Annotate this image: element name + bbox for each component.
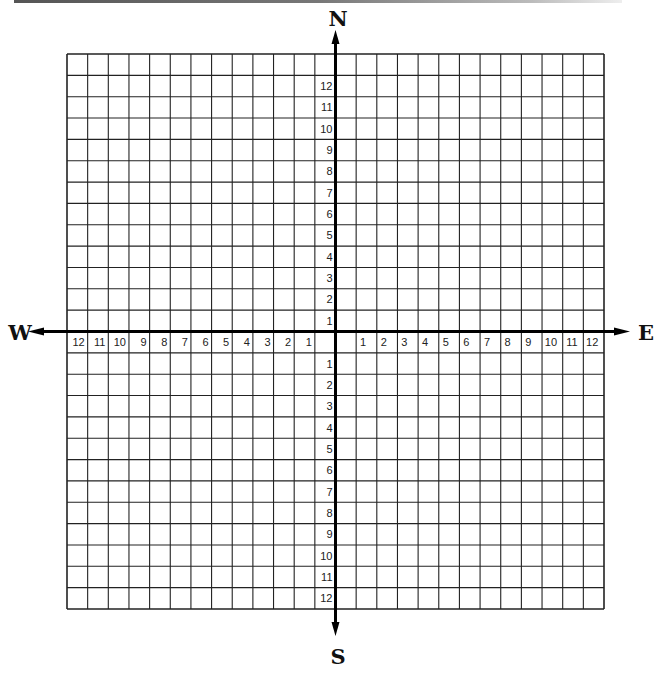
south-tick-label: 10 [320, 550, 332, 562]
west-tick-label: 9 [140, 336, 146, 348]
north-tick-label: 10 [320, 123, 332, 135]
south-tick-label: 7 [326, 486, 332, 498]
west-tick-label: 5 [223, 336, 229, 348]
west-tick-label: 6 [202, 336, 208, 348]
north-tick-label: 9 [326, 144, 332, 156]
west-tick-label: 11 [94, 336, 105, 348]
east-tick-label: 2 [381, 336, 387, 348]
east-tick-label: 7 [484, 336, 490, 348]
east-tick-label: 4 [422, 336, 428, 348]
east-tick-label: 8 [505, 336, 511, 348]
north-tick-label: 3 [326, 272, 332, 284]
west-label: W [7, 320, 32, 345]
west-tick-label: 8 [161, 336, 167, 348]
east-tick-label: 5 [443, 336, 449, 348]
north-arrow-icon [332, 30, 340, 44]
west-tick-label: 1 [306, 336, 312, 348]
north-tick-label: 6 [326, 208, 332, 220]
east-tick-label: 1 [360, 336, 366, 348]
north-tick-label: 12 [320, 80, 332, 92]
east-arrow-icon [614, 328, 630, 336]
south-tick-label: 11 [321, 571, 332, 583]
north-tick-label: 1 [326, 315, 332, 327]
south-label: S [330, 644, 345, 669]
south-tick-label: 5 [326, 443, 332, 455]
west-tick-label: 4 [244, 336, 250, 348]
west-tick-label: 3 [264, 336, 270, 348]
south-tick-label: 9 [326, 528, 332, 540]
east-tick-label: 3 [401, 336, 407, 348]
west-tick-label: 12 [72, 336, 84, 348]
south-tick-label: 8 [326, 507, 332, 519]
east-label: E [638, 320, 654, 345]
south-tick-label: 12 [320, 592, 332, 604]
coordinate-grid: 1211109876543211234567891011121211109876… [0, 0, 668, 680]
west-tick-label: 2 [285, 336, 291, 348]
north-tick-label: 8 [326, 165, 332, 177]
south-tick-label: 4 [326, 422, 332, 434]
south-tick-label: 3 [326, 400, 332, 412]
east-tick-label: 11 [566, 336, 577, 348]
south-tick-label: 1 [326, 358, 332, 370]
east-tick-label: 9 [525, 336, 531, 348]
north-tick-label: 11 [321, 101, 332, 113]
south-tick-label: 6 [326, 464, 332, 476]
west-tick-label: 7 [182, 336, 188, 348]
east-tick-label: 12 [586, 336, 598, 348]
north-tick-label: 4 [326, 251, 332, 263]
east-tick-label: 6 [463, 336, 469, 348]
east-tick-label: 10 [545, 336, 557, 348]
south-arrow-icon [332, 622, 340, 636]
north-tick-label: 5 [326, 229, 332, 241]
south-tick-label: 2 [326, 379, 332, 391]
north-label: N [328, 6, 347, 31]
west-tick-label: 10 [114, 336, 126, 348]
north-tick-label: 7 [326, 187, 332, 199]
north-tick-label: 2 [326, 293, 332, 305]
